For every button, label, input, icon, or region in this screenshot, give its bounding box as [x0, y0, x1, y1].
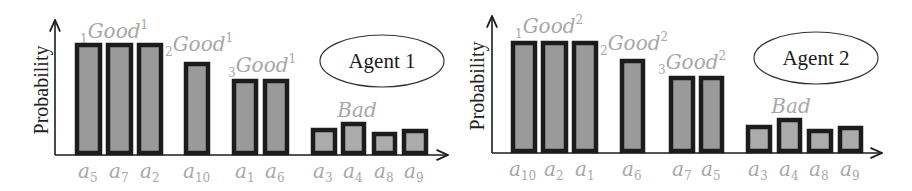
- tick-a9: a9: [404, 159, 424, 185]
- bar-a5: [77, 45, 100, 153]
- bar-a3: [313, 130, 335, 153]
- y-axis-label: Probability: [466, 42, 489, 131]
- tick-a3: a3: [313, 159, 333, 185]
- tick-a8: a8: [374, 159, 394, 185]
- y-axis-label: Probability: [30, 46, 53, 135]
- group-label-good-3: 3Good2: [658, 49, 726, 77]
- tick-a5: a5: [701, 157, 721, 183]
- tick-a7: a7: [109, 159, 129, 185]
- bar-a9: [840, 128, 861, 151]
- bar-a8: [809, 131, 831, 151]
- bar-a1: [574, 43, 596, 151]
- tick-a5: a5: [78, 159, 98, 185]
- tick-a9: a9: [840, 157, 860, 183]
- group-label-bad: Bad: [770, 94, 810, 118]
- bar-a4: [779, 120, 800, 151]
- bar-a10: [513, 43, 535, 151]
- bar-a6: [265, 81, 287, 153]
- group-label-good-2: 2Good2: [600, 30, 668, 58]
- x-tick-labels: a10 a2 a1 a6 a7 a5 a3 a4 a8 a9: [509, 157, 860, 183]
- tick-a4: a4: [779, 157, 799, 183]
- x-tick-labels: a5 a7 a2 a10 a1 a6 a3 a4 a8 a9: [78, 159, 424, 185]
- group-label-good-2: 2Good1: [165, 31, 233, 59]
- bar-a6: [622, 61, 643, 151]
- figure: Probability 1Good1 2Good1 3Good1 Bad a5 …: [0, 0, 912, 191]
- bar-a4: [343, 124, 364, 153]
- tick-a6: a6: [265, 159, 285, 185]
- tick-a3: a3: [748, 157, 768, 183]
- group-label-good-1: 1Good2: [515, 13, 583, 41]
- tick-a10: a10: [509, 157, 536, 183]
- tick-a6: a6: [622, 157, 642, 183]
- bar-a7: [108, 45, 131, 153]
- group-label-good-3: 3Good1: [228, 52, 296, 80]
- tick-a10: a10: [183, 159, 210, 185]
- tick-a2: a2: [544, 157, 564, 183]
- group-label-good-1: 1Good1: [80, 18, 148, 46]
- tick-a1: a1: [235, 159, 255, 185]
- bar-a7: [671, 78, 693, 151]
- bar-a1: [234, 81, 256, 153]
- tick-a4: a4: [343, 159, 363, 185]
- bar-a3: [748, 127, 770, 151]
- tick-a8: a8: [809, 157, 829, 183]
- bar-a9: [404, 131, 426, 153]
- agent-label: Agent 2: [782, 46, 849, 70]
- group-label-bad: Bad: [336, 98, 376, 122]
- bar-a10: [186, 64, 208, 153]
- bar-a2: [543, 43, 566, 151]
- chart-agent-2: Probability 1Good2 2Good2 3Good2 Bad a10…: [466, 13, 882, 183]
- tick-a7: a7: [672, 157, 692, 183]
- bar-a5: [701, 78, 722, 151]
- tick-a2: a2: [140, 159, 160, 185]
- tick-a1: a1: [575, 157, 595, 183]
- bar-a8: [374, 134, 395, 153]
- chart-agent-1: Probability 1Good1 2Good1 3Good1 Bad a5 …: [30, 18, 448, 185]
- agent-label: Agent 1: [348, 49, 415, 73]
- bar-a2: [139, 45, 161, 153]
